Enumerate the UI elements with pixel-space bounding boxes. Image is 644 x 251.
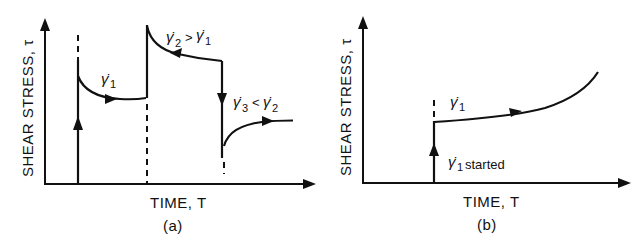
y-axis-label: SHEAR STRESS, τ bbox=[337, 38, 354, 176]
x-axis-arrow-icon bbox=[618, 178, 631, 188]
svg-text:<: < bbox=[252, 95, 260, 110]
x-axis-arrow-icon bbox=[303, 179, 316, 189]
svg-text:γ̇: γ̇ bbox=[450, 93, 459, 110]
svg-text:γ̇: γ̇ bbox=[166, 28, 175, 45]
svg-text:1: 1 bbox=[459, 101, 465, 113]
svg-text:γ̇: γ̇ bbox=[101, 70, 110, 87]
svg-text:1: 1 bbox=[457, 161, 463, 173]
panel-a: SHEAR STRESS, τ γ̇ 1 γ̇ 2 > γ̇ 1 bbox=[19, 18, 316, 234]
y-axis-label: SHEAR STRESS, τ bbox=[19, 39, 36, 177]
up-arrow-icon bbox=[73, 116, 83, 130]
label-gamma-2-gt-gamma-1: γ̇ 2 > γ̇ 1 bbox=[166, 26, 211, 49]
x-axis-label: TIME, T bbox=[463, 193, 520, 210]
label-gamma-3-lt-gamma-2: γ̇ 3 < γ̇ 2 bbox=[233, 93, 278, 114]
panel-caption: (b) bbox=[477, 216, 497, 233]
up-arrow-icon bbox=[429, 143, 439, 156]
flow-arrow-icon bbox=[170, 48, 182, 58]
flow-arrow-icon bbox=[262, 116, 274, 126]
svg-text:started: started bbox=[465, 157, 505, 172]
down-arrow-icon bbox=[217, 93, 227, 106]
svg-text:2: 2 bbox=[272, 102, 278, 114]
svg-text:γ̇: γ̇ bbox=[233, 93, 242, 110]
svg-text:1: 1 bbox=[110, 78, 116, 90]
svg-text:2: 2 bbox=[175, 37, 181, 49]
svg-text:>: > bbox=[185, 30, 193, 45]
recovery-curve-3 bbox=[224, 121, 293, 147]
figure-canvas: SHEAR STRESS, τ γ̇ 1 γ̇ 2 > γ̇ 1 bbox=[0, 0, 644, 251]
y-axis-arrow-icon bbox=[358, 16, 368, 29]
y-axis-arrow-icon bbox=[40, 18, 50, 31]
svg-text:3: 3 bbox=[242, 102, 248, 114]
svg-text:γ̇: γ̇ bbox=[263, 93, 272, 110]
x-axis-label: TIME, T bbox=[150, 194, 207, 211]
panel-caption: (a) bbox=[163, 217, 183, 234]
label-gamma-1: γ̇ 1 bbox=[101, 70, 116, 90]
svg-text:γ̇: γ̇ bbox=[196, 26, 205, 43]
panel-b: SHEAR STRESS, τ γ̇ 1 γ̇ 1 started TIME, … bbox=[337, 16, 631, 233]
flow-arrow-icon bbox=[105, 94, 117, 104]
svg-text:γ̇: γ̇ bbox=[448, 153, 457, 170]
svg-text:1: 1 bbox=[205, 35, 211, 47]
label-gamma-1: γ̇ 1 bbox=[450, 93, 465, 113]
rising-curve bbox=[434, 72, 598, 122]
label-gamma-1-started: γ̇ 1 started bbox=[448, 153, 505, 173]
